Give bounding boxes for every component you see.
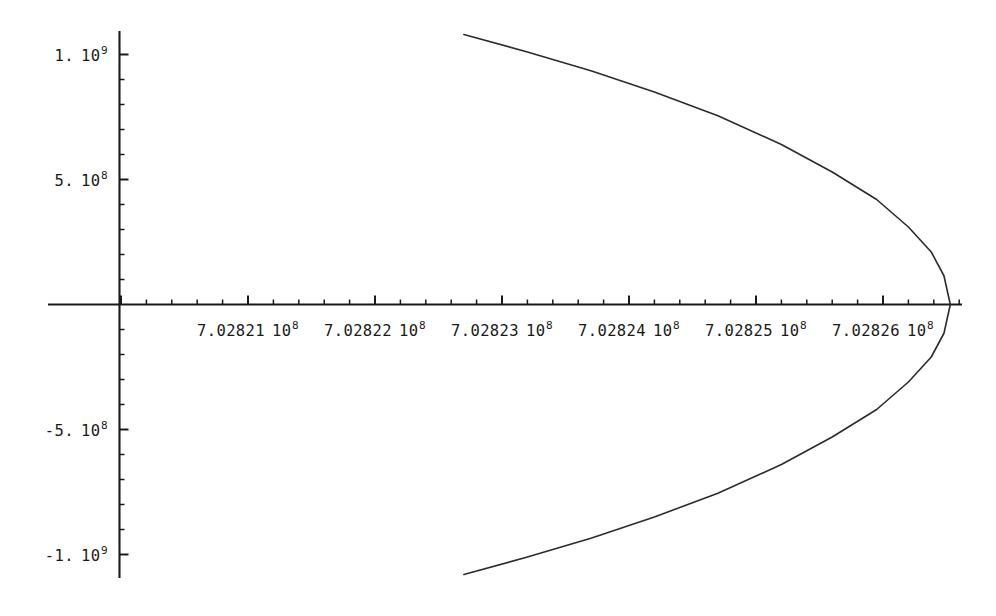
tick-base: 10 (81, 422, 100, 440)
tick-mantissa: 7.02821 (197, 322, 265, 340)
x-axis-ticks (121, 296, 959, 305)
y-tick-label: 5.108 (55, 169, 108, 189)
tick-base: 10 (780, 322, 799, 340)
tick-base: 10 (399, 322, 418, 340)
tick-mantissa: 7.02824 (578, 322, 646, 340)
x-tick-label: 7.02822108 (324, 320, 426, 340)
tick-exponent: 8 (101, 418, 108, 431)
tick-base: 10 (81, 547, 100, 565)
tick-base: 10 (526, 322, 545, 340)
tick-base: 10 (272, 322, 291, 340)
tick-base: 10 (907, 322, 926, 340)
tick-exponent: 8 (800, 319, 807, 332)
x-tick-label: 7.02826108 (832, 320, 934, 340)
tick-base: 10 (653, 322, 672, 340)
tick-mantissa: -1. (45, 547, 74, 565)
tick-base: 10 (81, 47, 100, 65)
y-tick-label: 1.109 (55, 44, 108, 64)
tick-exponent: 9 (101, 43, 108, 56)
tick-mantissa: 1. (55, 47, 74, 65)
plot-canvas: 7.028211087.028221087.028231087.02824108… (0, 0, 996, 616)
x-tick-label: 7.02824108 (578, 320, 680, 340)
y-tick-label: -5.108 (45, 419, 108, 439)
plot-graphics (0, 0, 996, 616)
tick-exponent: 8 (419, 319, 426, 332)
x-tick-label: 7.02821108 (197, 320, 299, 340)
tick-mantissa: 7.02826 (832, 322, 900, 340)
curve-parabola-lower (464, 305, 950, 575)
x-tick-label: 7.02823108 (451, 320, 553, 340)
tick-base: 10 (81, 172, 100, 190)
tick-exponent: 8 (292, 319, 299, 332)
tick-exponent: 9 (101, 543, 108, 556)
tick-mantissa: -5. (45, 422, 74, 440)
y-tick-label: -1.109 (45, 544, 108, 564)
curve-parabola-upper (464, 35, 950, 305)
tick-mantissa: 5. (55, 172, 74, 190)
tick-mantissa: 7.02822 (324, 322, 392, 340)
tick-exponent: 8 (673, 319, 680, 332)
x-tick-label: 7.02825108 (705, 320, 807, 340)
x-axis-group (48, 296, 962, 305)
tick-mantissa: 7.02825 (705, 322, 773, 340)
tick-mantissa: 7.02823 (451, 322, 519, 340)
tick-exponent: 8 (927, 319, 934, 332)
tick-exponent: 8 (101, 168, 108, 181)
tick-exponent: 8 (546, 319, 553, 332)
